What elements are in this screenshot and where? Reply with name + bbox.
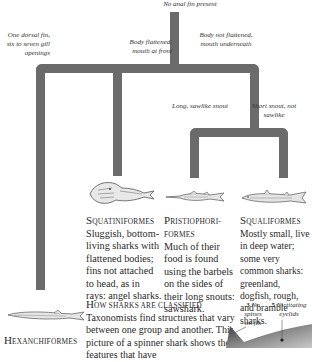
order-title: Pristiophori- formes xyxy=(164,214,236,241)
angel-shark-illustration xyxy=(86,178,156,208)
sawshark-illustration xyxy=(164,190,226,204)
dogfish-illustration xyxy=(240,190,308,206)
callout-label: Nictitating eyelids xyxy=(277,301,307,318)
heading-rest: ow sharks are classified xyxy=(94,301,202,310)
branch-label-not-sawlike: Short snout, not sawlike xyxy=(244,102,304,120)
tree-line xyxy=(113,64,122,176)
tree-line xyxy=(250,64,259,130)
frilled-shark-illustration xyxy=(6,308,86,322)
callout-no-spines: 3 No spines on fin xyxy=(240,301,266,328)
callout-leader-line xyxy=(228,326,248,336)
order-title: Hexanchiformes xyxy=(4,334,88,348)
title-rest: exanchiformes xyxy=(12,337,77,346)
tree-line xyxy=(190,128,288,137)
branch-label-sawlike: Long, sawlike snout xyxy=(170,102,230,111)
order-description: Sluggish, bottom-living sharks with flat… xyxy=(86,228,162,302)
title-initial: H xyxy=(4,334,12,346)
tree-line xyxy=(36,64,45,290)
callout-number: 3 xyxy=(246,301,250,309)
title-rest: quatiniformes xyxy=(92,217,154,226)
section-heading: How sharks are classified xyxy=(86,298,236,312)
title-rest: ristiophori- xyxy=(170,217,221,226)
tree-line xyxy=(113,64,259,73)
callout-nictitating-eyelids: 5 Nictitating eyelids xyxy=(266,301,312,319)
branch-label-not-flattened: Body not flattened, mouth underneath xyxy=(196,31,256,49)
order-squatiniformes: Squatiniformes Sluggish, bottom-living s… xyxy=(86,214,162,302)
title-rest: qualiformes xyxy=(246,217,301,226)
tree-line xyxy=(190,128,199,178)
tree-line xyxy=(279,128,288,178)
title-rest-line2: formes xyxy=(164,230,195,239)
callout-number: 5 xyxy=(271,301,275,309)
callout-leader-line xyxy=(280,320,284,342)
branch-label-hexanchi: One dorsal fin, six to seven gill openin… xyxy=(0,31,50,58)
order-title: Squaliformes xyxy=(240,214,312,228)
heading-initial: H xyxy=(86,298,94,310)
root-label: No anal fin present xyxy=(140,0,240,9)
order-hexanchiformes: Hexanchiformes xyxy=(4,334,88,348)
branch-label-flattened: Body flattened, mouth at front xyxy=(112,38,172,56)
order-title: Squatiniformes xyxy=(86,214,162,228)
